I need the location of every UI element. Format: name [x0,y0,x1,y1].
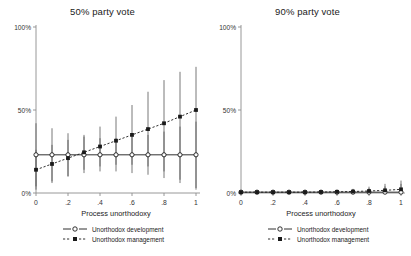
x-axis-label: Process unorthodoxy [286,209,356,218]
y-tick-label: 0% [21,190,31,197]
x-tick-label: .8 [161,199,167,206]
legend-label-development: Unorthodox development [293,226,368,233]
data-point-filled-square [239,190,243,194]
chart-panel-left: 50% party vote 0%50%100%0.2.4.6.81Proces… [0,0,205,256]
legend-item-development: Unorthodox development [0,224,205,234]
legend-item-management: Unorthodox management [0,234,205,244]
legend-key-filled-square-icon [62,234,88,244]
data-point-filled-square [335,190,339,194]
data-point-open-circle [50,153,54,157]
x-tick-label: .4 [97,199,103,206]
x-tick-label: 0 [34,199,38,206]
data-point-open-circle [34,153,38,157]
figure: 50% party vote 0%50%100%0.2.4.6.81Proces… [0,0,411,256]
legend-label-management: Unorthodox management [88,236,164,243]
legend-key-open-circle-icon [62,224,88,234]
data-point-filled-square [146,127,150,131]
x-tick-label: .8 [366,199,372,206]
data-point-filled-square [82,150,86,154]
data-point-filled-square [194,108,198,112]
data-point-filled-square [287,190,291,194]
y-tick-label: 100% [14,24,31,31]
data-point-open-circle [194,153,198,157]
legend-label-management: Unorthodox management [293,236,369,243]
legend-key-filled-square-icon [267,234,293,244]
y-tick-label: 50% [18,107,31,114]
legend-item-development: Unorthodox development [205,224,410,234]
data-point-open-circle [114,153,118,157]
plot-area-left: 0%50%100%0.2.4.6.81Process unorthodoxy [0,0,205,220]
data-point-filled-square [319,190,323,194]
x-tick-label: .4 [302,199,308,206]
y-tick-label: 50% [223,107,236,114]
data-point-filled-square [383,188,387,192]
legend-label-development: Unorthodox development [88,226,163,233]
x-tick-label: 0 [239,199,243,206]
data-point-filled-square [66,156,70,160]
chart-panel-right: 90% party vote 0%50%100%0.2.4.6.81Proces… [205,0,410,256]
data-point-open-circle [98,153,102,157]
legend-item-management: Unorthodox management [205,234,410,244]
data-point-open-circle [178,153,182,157]
x-tick-label: 1 [399,199,403,206]
data-point-filled-square [98,145,102,149]
data-point-filled-square [114,139,118,143]
x-axis-label: Process unorthodoxy [81,209,151,218]
x-tick-label: .2 [270,199,276,206]
y-tick-label: 100% [219,24,236,31]
data-point-open-circle [130,153,134,157]
data-point-filled-square [50,162,54,166]
data-point-filled-square [255,190,259,194]
data-point-filled-square [303,190,307,194]
data-point-filled-square [367,189,371,193]
y-tick-label: 0% [226,190,236,197]
legend-key-open-circle-icon [267,224,293,234]
x-tick-label: .6 [334,199,340,206]
data-point-filled-square [162,121,166,125]
plot-area-right: 0%50%100%0.2.4.6.81Process unorthodoxy [205,0,410,220]
data-point-open-circle [162,153,166,157]
data-point-filled-square [178,115,182,119]
legend-left: Unorthodox development Unorthodox manage… [0,224,205,244]
legend-right: Unorthodox development Unorthodox manage… [205,224,410,244]
data-point-open-circle [146,153,150,157]
data-point-filled-square [399,187,403,191]
x-tick-label: .6 [129,199,135,206]
x-tick-label: 1 [194,199,198,206]
x-tick-label: .2 [65,199,71,206]
data-point-filled-square [271,190,275,194]
data-point-filled-square [130,133,134,137]
data-point-filled-square [351,190,355,194]
data-point-filled-square [34,168,38,172]
